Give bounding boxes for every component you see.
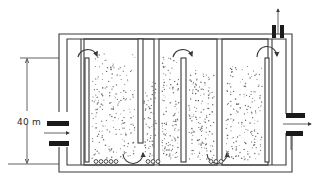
inlet-pipe-top [47,121,69,126]
outlet-pipe-top [286,113,305,118]
flow-arrows [78,46,277,163]
baffles [85,39,269,162]
flow-arrow-under-1 [123,153,143,164]
tank-diagram [0,0,326,184]
dimension-label: 40 m [17,117,41,127]
outlet-pipe [283,113,311,150]
outlet-pipe-bottom [286,131,303,136]
inlet-pipe [44,121,69,146]
baffle-1 [85,58,89,162]
chambers [159,39,272,165]
baffle-3 [181,58,186,162]
gas-outlet [272,9,284,38]
dimension-line [8,58,59,164]
bottom-diffusers [94,160,223,164]
aeration-bubbles [91,53,262,160]
inlet-pipe-bottom [49,141,69,146]
inner-tank-wall [67,39,286,165]
baffle-4 [265,58,269,162]
flow-arrow-over-3 [257,46,277,57]
flow-arrow-over-2 [173,50,192,57]
baffle-2 [138,39,143,143]
